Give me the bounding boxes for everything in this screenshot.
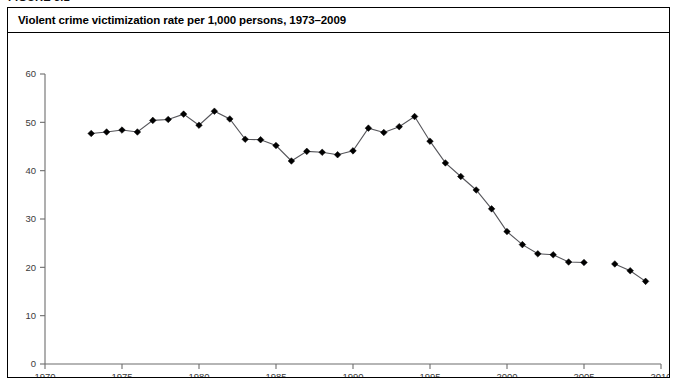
figure-number-label: FIGURE 3.1: [8, 0, 70, 3]
x-axis-ticks: 197019751980198519901995200020052010: [34, 364, 669, 377]
data-point-1994: [411, 113, 418, 120]
data-point-2008: [627, 267, 634, 274]
y-tick-label-40: 40: [25, 165, 36, 176]
y-tick-label-20: 20: [25, 262, 36, 273]
data-point-2009: [642, 278, 649, 285]
data-series-violent-crime-rate: [88, 108, 649, 285]
figure-page: FIGURE 3.1 Violent crime victimization r…: [0, 0, 677, 385]
data-point-1988: [319, 149, 326, 156]
y-tick-label-60: 60: [25, 68, 36, 79]
y-tick-label-50: 50: [25, 117, 36, 128]
x-tick-label-1990: 1990: [342, 371, 363, 377]
y-axis-ticks: 0102030405060: [25, 68, 45, 369]
x-tick-label-1995: 1995: [419, 371, 440, 377]
data-point-1992: [381, 129, 388, 136]
data-point-1974: [103, 129, 110, 136]
data-point-1989: [334, 151, 341, 158]
data-point-2003: [550, 251, 557, 258]
data-point-1984: [257, 136, 264, 143]
chart-title: Violent crime victimization rate per 1,0…: [18, 14, 346, 26]
data-point-1993: [396, 123, 403, 130]
x-tick-label-2010: 2010: [650, 371, 669, 377]
data-point-2002: [535, 251, 542, 258]
y-tick-label-0: 0: [31, 358, 36, 369]
data-point-1991: [365, 125, 372, 132]
x-tick-label-1985: 1985: [265, 371, 286, 377]
y-tick-label-30: 30: [25, 213, 36, 224]
y-axis: 0102030405060: [25, 68, 45, 369]
data-point-2004: [565, 259, 572, 266]
line-chart-svg: 0102030405060 19701975198019851990199520…: [8, 33, 669, 377]
x-tick-label-1975: 1975: [111, 371, 132, 377]
data-point-1995: [427, 138, 434, 145]
x-axis: 197019751980198519901995200020052010: [34, 364, 669, 377]
data-point-1975: [119, 127, 126, 134]
data-point-1978: [165, 116, 172, 123]
data-point-1973: [88, 130, 95, 137]
series-line-segment-1: [91, 111, 584, 262]
data-point-2005: [581, 259, 588, 266]
title-bar: Violent crime victimization rate per 1,0…: [8, 8, 669, 33]
x-tick-label-2000: 2000: [496, 371, 517, 377]
data-point-1987: [304, 148, 311, 155]
data-point-1990: [350, 148, 357, 155]
y-tick-label-10: 10: [25, 310, 36, 321]
x-tick-label-1980: 1980: [188, 371, 209, 377]
x-tick-label-1970: 1970: [34, 371, 55, 377]
plot-area: 0102030405060 19701975198019851990199520…: [8, 33, 669, 377]
data-point-2007: [612, 261, 619, 268]
figure-box: Violent crime victimization rate per 1,0…: [7, 7, 670, 378]
x-tick-label-2005: 2005: [573, 371, 594, 377]
